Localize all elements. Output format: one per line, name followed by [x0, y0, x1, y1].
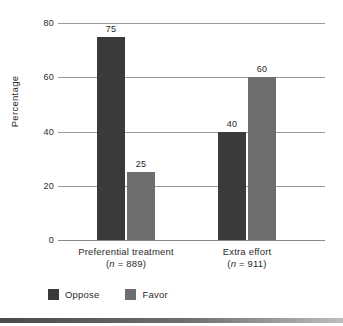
plot-area: 75254060 [58, 23, 325, 240]
chart-legend: OpposeFavor [48, 289, 168, 300]
y-tick-label-60: 60 [14, 72, 54, 82]
y-axis-tick-labels: 020406080 [10, 23, 54, 240]
x-group-label-n-1: (n = 911) [177, 258, 317, 270]
legend-label-favor: Favor [142, 289, 167, 300]
bar-value-label-favor-0: 25 [121, 159, 161, 169]
x-group-label-0: Preferential treatment(n = 889) [56, 246, 196, 270]
bar-value-label-oppose-0: 75 [91, 24, 131, 34]
y-tick-label-40: 40 [14, 127, 54, 137]
legend-label-oppose: Oppose [65, 289, 99, 300]
y-tick-label-0: 0 [14, 235, 54, 245]
legend-swatch-favor [125, 289, 136, 300]
x-group-label-1: Extra effort(n = 911) [177, 246, 317, 270]
legend-item-favor[interactable]: Favor [125, 289, 167, 300]
bar-oppose-0[interactable] [97, 37, 125, 240]
bar-favor-0[interactable] [127, 172, 155, 240]
legend-swatch-oppose [48, 289, 59, 300]
legend-item-oppose[interactable]: Oppose [48, 289, 99, 300]
bar-value-label-oppose-1: 40 [212, 119, 252, 129]
y-tick-label-20: 20 [14, 181, 54, 191]
x-group-label-name-0: Preferential treatment [56, 246, 196, 258]
y-tick-label-80: 80 [14, 18, 54, 28]
x-group-label-name-1: Extra effort [177, 246, 317, 258]
x-group-label-n-0: (n = 889) [56, 258, 196, 270]
bar-value-label-favor-1: 60 [242, 64, 282, 74]
bar-oppose-1[interactable] [218, 132, 246, 241]
gridline-0 [58, 240, 325, 241]
bottom-rule-divider [0, 318, 343, 323]
bar-chart-figure: Percentage 020406080 75254060 Preferenti… [0, 0, 343, 326]
bar-favor-1[interactable] [248, 77, 276, 240]
